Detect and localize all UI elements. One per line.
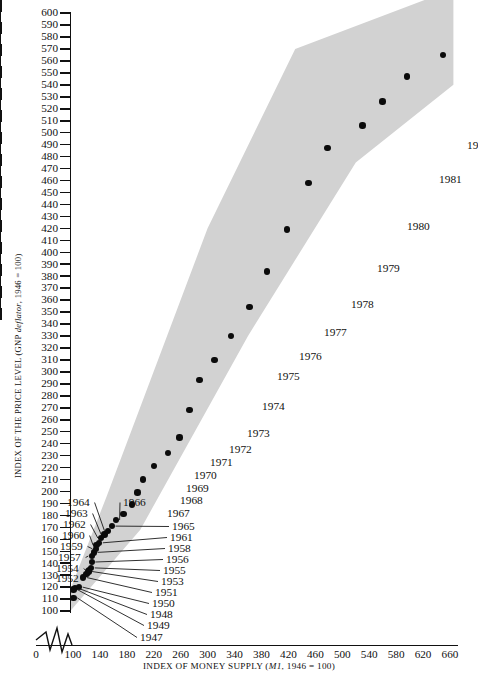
- y-axis-tick-label: 430: [14, 211, 58, 222]
- data-point-label: 1950: [152, 598, 175, 609]
- data-point: [134, 489, 140, 495]
- y-axis-tick: [60, 347, 71, 349]
- y-axis-tick: [60, 479, 71, 481]
- y-axis-tick: [60, 228, 71, 230]
- y-axis-tick: [60, 204, 71, 206]
- data-point-label: 1980: [407, 221, 430, 232]
- y-axis-tick-label: 440: [14, 199, 58, 210]
- data-point-label: 1975: [277, 371, 300, 382]
- data-point-label: 1969: [186, 483, 209, 494]
- data-point-label: 1956: [166, 554, 189, 565]
- data-point: [404, 73, 410, 79]
- y-axis-tick: [60, 120, 71, 122]
- y-axis-tick: [60, 491, 71, 493]
- y-axis-tick: [60, 96, 71, 98]
- y-axis-tick: [60, 610, 71, 612]
- x-axis-tick-label: 660: [430, 648, 470, 660]
- y-axis-tick: [60, 252, 71, 254]
- y-axis-tick: [60, 527, 71, 529]
- y-axis-tick-label: 570: [14, 43, 58, 54]
- y-axis-tick-label: 110: [14, 593, 58, 604]
- y-axis-tick-label: 500: [14, 127, 58, 138]
- data-point-label: 1974: [262, 401, 285, 412]
- data-point: [113, 517, 119, 523]
- data-point: [359, 122, 365, 128]
- y-axis-tick-label: 560: [14, 55, 58, 66]
- data-point-label: 1970: [194, 470, 217, 481]
- data-point-label: 1954: [56, 563, 79, 574]
- y-axis-tick-label: 410: [14, 235, 58, 246]
- data-point-label: 1947: [140, 632, 163, 643]
- y-axis-tick: [60, 287, 71, 289]
- data-point: [120, 511, 126, 517]
- data-point-label: 1958: [168, 543, 191, 554]
- y-axis-tick: [60, 299, 71, 301]
- y-axis-tick-label: 160: [14, 534, 58, 545]
- y-axis-tick-label: 520: [14, 103, 58, 114]
- data-point: [440, 52, 446, 58]
- y-axis-tick-label: 120: [14, 581, 58, 592]
- y-axis-tick: [60, 431, 71, 433]
- x-axis-title: INDEX OF MONEY SUPPLY (M1, 1946 = 100): [0, 661, 478, 671]
- y-axis-tick: [60, 72, 71, 74]
- y-axis-tick: [60, 180, 71, 182]
- y-axis-tick: [60, 503, 71, 505]
- y-axis-tick-label: 170: [14, 522, 58, 533]
- y-axis-tick-label: 550: [14, 67, 58, 78]
- y-axis-tick: [60, 562, 71, 564]
- y-axis-tick: [60, 443, 71, 445]
- data-point-label: 1965: [172, 521, 195, 532]
- y-axis-tick: [60, 36, 71, 38]
- y-axis-tick-label: 580: [14, 31, 58, 42]
- y-axis-tick: [60, 60, 71, 62]
- y-axis-tick: [60, 192, 71, 194]
- y-axis-tick: [60, 12, 71, 14]
- y-axis-tick: [60, 455, 71, 457]
- money-supply-price-level-scatter-chart: 1947194819491950195119521953195419551956…: [0, 0, 478, 680]
- y-axis-tick: [60, 144, 71, 146]
- data-point-label: 1968: [180, 495, 203, 506]
- data-point-label: 1972: [229, 444, 252, 455]
- data-point-label: 1955: [163, 565, 186, 576]
- y-axis-tick: [60, 275, 71, 277]
- data-point: [186, 407, 192, 413]
- y-axis-tick: [60, 395, 71, 397]
- y-axis-tick: [60, 311, 71, 313]
- x-axis-origin-label: 0: [16, 648, 56, 660]
- data-point-label: 1979: [377, 263, 400, 274]
- y-axis-tick: [60, 24, 71, 26]
- y-axis-tick: [60, 407, 71, 409]
- data-point: [305, 180, 311, 186]
- y-axis-tick: [60, 263, 71, 265]
- data-point: [151, 463, 157, 469]
- data-point-label: 1978: [351, 299, 374, 310]
- y-axis-tick-label: 490: [14, 139, 58, 150]
- y-axis-tick: [60, 359, 71, 361]
- data-point: [70, 595, 76, 601]
- y-axis-tick-label: 470: [14, 163, 58, 174]
- y-axis-title: INDEX OF THE PRICE LEVEL (GNP deflator, …: [13, 254, 23, 479]
- y-axis-line: [70, 13, 71, 613]
- y-axis-tick-label: 480: [14, 151, 58, 162]
- y-axis-tick: [60, 539, 71, 541]
- data-point: [379, 98, 385, 104]
- y-axis-tick: [60, 108, 71, 110]
- y-axis-tick: [60, 574, 71, 576]
- data-point: [109, 523, 115, 529]
- y-axis-tick: [60, 156, 71, 158]
- y-axis-tick-label: 460: [14, 175, 58, 186]
- y-axis-tick-label: 130: [14, 570, 58, 581]
- data-point: [246, 304, 252, 310]
- data-point-label: 1977: [324, 327, 347, 338]
- y-axis-tick-label: 200: [14, 486, 58, 497]
- data-point-label: 1963: [65, 508, 88, 519]
- y-axis-tick-label: 600: [14, 7, 58, 18]
- data-point-label: 1961: [170, 532, 193, 543]
- data-point: [176, 434, 182, 440]
- y-axis-tick-label: 420: [14, 223, 58, 234]
- data-point: [324, 145, 330, 151]
- data-point-label: 1962: [63, 519, 86, 530]
- y-axis-tick: [60, 419, 71, 421]
- data-point-label: 1976: [299, 351, 322, 362]
- data-point-label: 1951: [155, 587, 178, 598]
